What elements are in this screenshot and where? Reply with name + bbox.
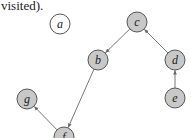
nodes-layer: acbdegf: [17, 12, 185, 138]
node-label: c: [134, 15, 140, 29]
node-c: c: [127, 12, 147, 32]
node-a: a: [50, 14, 70, 34]
node-label: e: [172, 91, 178, 105]
node-d: d: [165, 50, 185, 70]
node-g: g: [17, 89, 37, 109]
node-b: b: [88, 50, 108, 70]
edge-d-to-c: [144, 29, 168, 53]
edges-layer: [34, 29, 175, 130]
node-label: d: [172, 53, 179, 67]
node-label: a: [57, 17, 63, 31]
edge-b-to-f: [68, 69, 94, 127]
node-label: b: [95, 53, 101, 67]
node-f: f: [54, 127, 74, 138]
edge-f-to-g: [34, 107, 57, 130]
edge-c-to-b: [106, 29, 130, 53]
node-e: e: [165, 88, 185, 108]
node-label: g: [24, 92, 30, 106]
graph-diagram: acbdegf: [0, 0, 191, 138]
